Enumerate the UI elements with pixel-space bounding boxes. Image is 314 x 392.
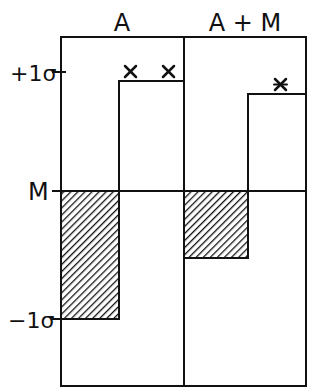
marker-x-icon [163,66,174,77]
hatched-bar-a-plus-m [184,191,248,258]
column-header-a: A [114,9,131,37]
label-plus-sigma: +1σ [10,61,56,86]
label-minus-sigma: −1σ [8,308,54,333]
diagram-canvas: A A + M +1σ M −1σ [0,0,314,392]
label-mean: M [28,178,49,206]
open-bar-a-plus-m [248,94,306,191]
column-header-a-plus-m: A + M [209,9,282,37]
marker-x-icon [274,79,287,90]
hatched-bar-a [61,191,119,319]
open-bar-a [119,81,184,191]
marker-x-icon [125,66,136,77]
